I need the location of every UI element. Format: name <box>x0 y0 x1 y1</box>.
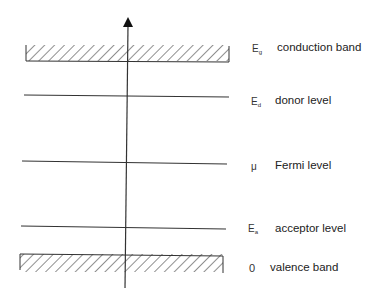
axis-arrowhead-icon <box>123 17 133 27</box>
acceptor-level-line <box>21 226 226 229</box>
conduction-symbol: Eg <box>252 43 262 55</box>
valence-band-label: valence band <box>270 261 338 273</box>
conduction-band-label: conduction band <box>277 41 361 53</box>
acceptor-symbol: Ea <box>248 223 258 235</box>
fermi-symbol: μ <box>251 161 257 172</box>
valence-band <box>20 254 223 273</box>
donor-symbol: Ed <box>251 96 261 108</box>
fermi-level-line <box>22 161 227 164</box>
fermi-level-label: Fermi level <box>275 159 331 171</box>
donor-level-label: donor level <box>275 94 331 106</box>
acceptor-level-label: acceptor level <box>275 222 346 234</box>
donor-level-line <box>24 95 229 97</box>
valence-symbol: 0 <box>249 262 255 274</box>
